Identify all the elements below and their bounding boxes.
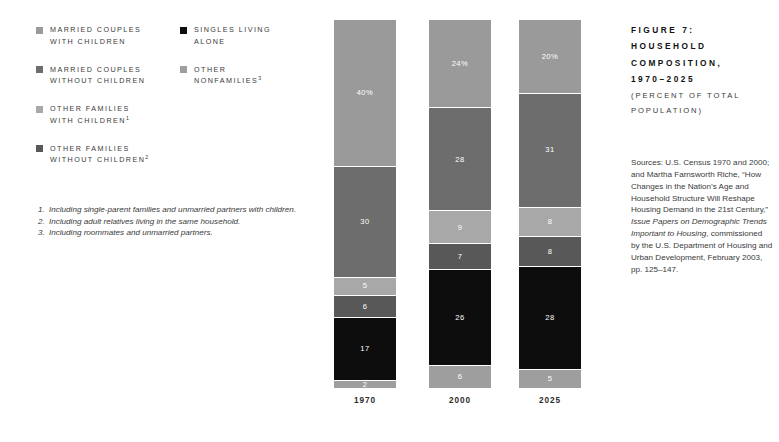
bar-group: 24%28972662000 <box>429 20 491 388</box>
bar-segment[interactable]: 30 <box>334 167 396 277</box>
legend-item-label: OTHER FAMILIES WITH CHILDREN1 <box>50 103 130 126</box>
legend-footnote-marker: 3 <box>258 75 261 81</box>
figure-title-line: HOUSEHOLD <box>631 38 769 54</box>
bar-segment[interactable]: 40% <box>334 20 396 167</box>
figure-caption: FIGURE 7:HOUSEHOLDCOMPOSITION,1970–2025 … <box>631 22 769 118</box>
chart-legend: MARRIED COUPLES WITH CHILDRENMARRIED COU… <box>36 24 321 182</box>
x-axis-tick-label: 1970 <box>334 396 396 405</box>
bar-segment[interactable]: 28 <box>429 108 491 211</box>
bar-segment[interactable]: 5 <box>519 370 581 388</box>
legend-footnote-marker: 2 <box>145 154 148 160</box>
figure-title-line: COMPOSITION, <box>631 55 769 71</box>
stacked-bar-chart: 40%3056172197024%2897266200020%318828520… <box>330 20 602 420</box>
legend-swatch-icon <box>36 27 43 34</box>
bar-segment-value: 28 <box>455 156 464 164</box>
legend-item-label: MARRIED COUPLES WITH CHILDREN <box>50 24 141 47</box>
bar-segment[interactable]: 5 <box>334 278 396 296</box>
bar-segment-value: 8 <box>548 218 553 226</box>
bar-segment[interactable]: 2 <box>334 381 396 389</box>
bar-stack: 40%3056172 <box>334 20 396 388</box>
figure-subtitle-line: POPULATION) <box>631 103 769 118</box>
figure-title-line: 1970–2025 <box>631 71 769 87</box>
bar-segment-value: 8 <box>548 248 553 256</box>
legend-item-label: OTHER FAMILIES WITHOUT CHILDREN2 <box>50 143 148 166</box>
footnote-item: 2.Including adult relatives living in th… <box>38 216 318 228</box>
bar-segment-value: 40% <box>357 89 374 97</box>
x-axis-tick-label: 2025 <box>519 396 581 405</box>
figure-page: MARRIED COUPLES WITH CHILDRENMARRIED COU… <box>0 0 779 442</box>
figure-title-line: FIGURE 7: <box>631 22 769 38</box>
footnote-item: 1.Including single-parent families and u… <box>38 204 318 216</box>
bar-segment-value: 17 <box>360 345 369 353</box>
bar-segment-value: 7 <box>458 253 463 261</box>
bar-segment-value: 28 <box>545 314 554 322</box>
bar-group: 20%31882852025 <box>519 20 581 388</box>
footnote-number: 2. <box>38 216 49 228</box>
bar-segment[interactable]: 17 <box>334 318 396 381</box>
bar-segment[interactable]: 26 <box>429 270 491 366</box>
footnote-number: 1. <box>38 204 49 216</box>
bar-segment-value: 6 <box>458 373 463 381</box>
bar-segment[interactable]: 8 <box>519 208 581 237</box>
footnote-list: 1.Including single-parent families and u… <box>38 204 318 239</box>
bar-stack: 24%2897266 <box>429 20 491 388</box>
bar-segment-value: 26 <box>455 314 464 322</box>
legend-item[interactable]: OTHER FAMILIES WITHOUT CHILDREN2 <box>36 143 180 166</box>
x-axis-tick-label: 2000 <box>429 396 491 405</box>
legend-item[interactable]: OTHER NONFAMILIES3 <box>180 64 320 87</box>
bar-stack: 20%3188285 <box>519 20 581 388</box>
legend-footnote-marker: 1 <box>126 114 129 120</box>
bar-segment[interactable]: 28 <box>519 267 581 370</box>
bar-segment[interactable]: 6 <box>334 296 396 318</box>
bar-segment-value: 9 <box>458 224 463 232</box>
sources-part-1: Sources: U.S. Census 1970 and 2000; and … <box>631 158 769 214</box>
bar-segment[interactable]: 7 <box>429 244 491 270</box>
bar-segment-value: 31 <box>545 146 554 154</box>
legend-item-label: SINGLES LIVING ALONE <box>194 24 271 47</box>
bar-segment[interactable]: 8 <box>519 237 581 266</box>
bar-segment-value: 24% <box>452 60 469 68</box>
legend-column-left: MARRIED COUPLES WITH CHILDRENMARRIED COU… <box>36 24 180 182</box>
bar-segment[interactable]: 31 <box>519 94 581 208</box>
figure-title: FIGURE 7:HOUSEHOLDCOMPOSITION,1970–2025 <box>631 22 769 88</box>
figure-sources: Sources: U.S. Census 1970 and 2000; and … <box>631 157 773 275</box>
legend-swatch-icon <box>180 27 187 34</box>
legend-swatch-icon <box>36 66 43 73</box>
figure-subtitle-line: (PERCENT OF TOTAL <box>631 88 769 103</box>
footnote-text: Including adult relatives living in the … <box>49 216 318 228</box>
legend-swatch-icon <box>36 106 43 113</box>
legend-swatch-icon <box>180 66 187 73</box>
legend-item[interactable]: OTHER FAMILIES WITH CHILDREN1 <box>36 103 180 126</box>
legend-item[interactable]: MARRIED COUPLES WITH CHILDREN <box>36 24 180 47</box>
bar-segment-value: 5 <box>548 375 553 383</box>
bar-segment-value: 2 <box>363 381 368 389</box>
bar-segment[interactable]: 24% <box>429 20 491 108</box>
bar-group: 40%30561721970 <box>334 20 396 388</box>
bar-segment-value: 5 <box>363 282 368 290</box>
footnote-text: Including roommates and unmarried partne… <box>49 227 318 239</box>
bar-segment[interactable]: 6 <box>429 366 491 388</box>
bar-segment-value: 20% <box>542 53 559 61</box>
footnote-text: Including single-parent families and unm… <box>49 204 318 216</box>
legend-item-label: MARRIED COUPLES WITHOUT CHILDREN <box>50 64 145 87</box>
footnote-number: 3. <box>38 227 49 239</box>
legend-item-label: OTHER NONFAMILIES3 <box>194 64 261 87</box>
bar-segment-value: 6 <box>363 303 368 311</box>
legend-item[interactable]: SINGLES LIVING ALONE <box>180 24 320 47</box>
sources-text: Sources: U.S. Census 1970 and 2000; and … <box>631 157 773 275</box>
figure-subtitle: (PERCENT OF TOTALPOPULATION) <box>631 88 769 118</box>
legend-swatch-icon <box>36 145 43 152</box>
legend-item[interactable]: MARRIED COUPLES WITHOUT CHILDREN <box>36 64 180 87</box>
legend-column-right: SINGLES LIVING ALONEOTHER NONFAMILIES3 <box>180 24 320 182</box>
bar-segment[interactable]: 20% <box>519 20 581 94</box>
footnote-item: 3.Including roommates and unmarried part… <box>38 227 318 239</box>
bar-segment-value: 30 <box>360 218 369 226</box>
bar-segment[interactable]: 9 <box>429 211 491 244</box>
